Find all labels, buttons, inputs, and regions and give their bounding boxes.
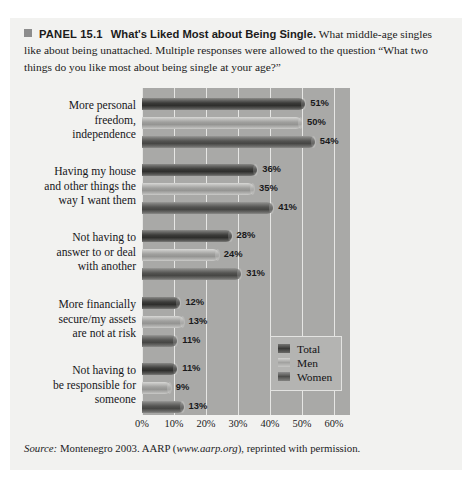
bar-row: 12% [142, 297, 350, 309]
bar-value-label: 41% [278, 201, 297, 212]
category-label-line: Not having to [24, 231, 136, 246]
category-label-line: Having my house [24, 165, 136, 180]
legend-swatch-total [278, 344, 290, 353]
bar-value-label: 13% [189, 400, 208, 411]
bar-value-label: 35% [259, 182, 278, 193]
bar-end-cap [180, 401, 185, 413]
bar-value-label: 50% [307, 116, 326, 127]
bar-row: 13% [142, 316, 350, 328]
bar [142, 98, 305, 110]
bar-value-label: 28% [237, 229, 256, 240]
bar-end-cap [250, 183, 255, 195]
bar-value-label: 24% [224, 248, 243, 259]
category-label-line: More financially [24, 298, 136, 313]
category-label-line: Not having to [24, 364, 136, 379]
bar-value-label: 11% [182, 362, 200, 373]
bar-row: 13% [142, 401, 350, 413]
bar [142, 335, 177, 347]
category-label: Having my houseand other things theway I… [24, 165, 136, 209]
category-label: More personalfreedom,independence [24, 99, 136, 143]
chart: More personalfreedom,independenceHaving … [24, 88, 448, 428]
bar-end-cap [176, 297, 181, 309]
x-tick-label: 10% [164, 418, 183, 429]
bar [142, 382, 171, 394]
bar-row: 31% [142, 268, 350, 280]
bar [142, 363, 177, 375]
category-label: Not having toanswer to or dealwith anoth… [24, 231, 136, 275]
category-label-line: be responsible for [24, 379, 136, 394]
x-tick-label: 50% [292, 418, 311, 429]
x-tick-label: 30% [228, 418, 247, 429]
bar [142, 202, 273, 214]
x-tick-label: 0% [135, 418, 149, 429]
bar-end-cap [173, 335, 178, 347]
x-tick-label: 60% [324, 418, 343, 429]
bar [142, 164, 257, 176]
bar [142, 297, 180, 309]
panel-caption: PANEL 15.1What's Liked Most about Being … [24, 26, 448, 75]
category-label-line: freedom, [24, 114, 136, 129]
chart-legend: Total Men Women [270, 336, 342, 391]
source-link: www.aarp.org [176, 442, 237, 454]
bar-value-label: 31% [246, 267, 265, 278]
category-label: More financiallysecure/my assetsare not … [24, 298, 136, 342]
bar-end-cap [215, 249, 220, 261]
bar-end-cap [301, 98, 306, 110]
x-tick-label: 20% [196, 418, 215, 429]
bar-end-cap [253, 164, 258, 176]
bar-end-cap [173, 363, 178, 375]
bar-value-label: 13% [189, 315, 208, 326]
bar-row: 54% [142, 136, 350, 148]
category-label-line: with another [24, 260, 136, 275]
legend-swatch-women [278, 372, 290, 381]
category-label-line: answer to or deal [24, 246, 136, 261]
category-label-line: independence [24, 128, 136, 143]
panel-title: What's Liked Most about Being Single. [111, 28, 316, 40]
x-tick-label: 40% [260, 418, 279, 429]
category-label-line: secure/my assets [24, 313, 136, 328]
bar [142, 230, 232, 242]
bar-end-cap [167, 382, 172, 394]
bar-end-cap [269, 202, 274, 214]
bar [142, 117, 302, 129]
bar-row: 41% [142, 202, 350, 214]
category-label: Not having tobe responsible forsomeone [24, 364, 136, 408]
square-marker-icon [24, 29, 32, 37]
bar-row: 24% [142, 249, 350, 261]
category-label-line: are not at risk [24, 327, 136, 342]
panel-label: PANEL 15.1 [39, 28, 103, 40]
category-axis-labels: More personalfreedom,independenceHaving … [24, 88, 136, 415]
legend-item: Men [278, 356, 335, 369]
category-label-line: More personal [24, 99, 136, 114]
bar-end-cap [228, 230, 233, 242]
panel-container: PANEL 15.1What's Liked Most about Being … [10, 18, 462, 470]
bar-end-cap [180, 316, 185, 328]
category-label-line: and other things the [24, 180, 136, 195]
bar-end-cap [298, 117, 303, 129]
legend-label-total: Total [297, 343, 320, 355]
bar-end-cap [237, 268, 242, 280]
bar-row: 28% [142, 230, 350, 242]
legend-label-women: Women [297, 371, 332, 383]
category-label-line: someone [24, 393, 136, 408]
legend-item: Women [278, 370, 335, 383]
source-note: Source: Montenegro 2003. AARP (www.aarp.… [24, 442, 448, 454]
source-prefix: Source: [24, 442, 57, 454]
legend-swatch-men [278, 358, 290, 367]
bar [142, 136, 315, 148]
bar [142, 401, 184, 413]
source-text-after: ), reprinted with permission. [238, 442, 361, 454]
bar-row: 35% [142, 183, 350, 195]
bar-end-cap [311, 136, 316, 148]
bar [142, 249, 219, 261]
bar [142, 316, 184, 328]
x-axis-tick-labels: 0%10%20%30%40%50%60% [142, 418, 350, 434]
legend-item: Total [278, 342, 335, 355]
legend-label-men: Men [297, 357, 318, 369]
source-text-before: Montenegro 2003. AARP ( [57, 442, 176, 454]
bar-row: 51% [142, 98, 350, 110]
bar [142, 268, 241, 280]
bar-value-label: 51% [310, 97, 329, 108]
bar-row: 50% [142, 117, 350, 129]
bar-value-label: 36% [262, 163, 281, 174]
